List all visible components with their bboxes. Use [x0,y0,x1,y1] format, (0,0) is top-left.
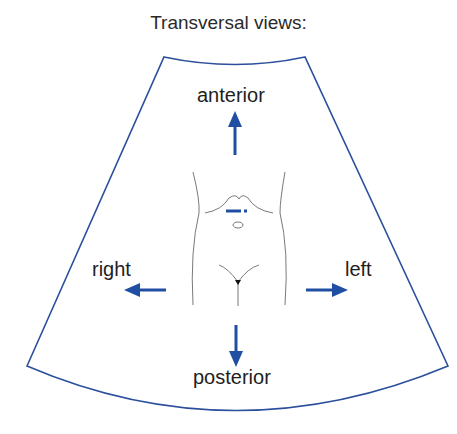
pubic-marker [235,280,241,285]
label-left: left [345,258,372,281]
right-arrow-icon [124,283,166,297]
label-posterior: posterior [193,366,271,389]
anterior-arrow-icon [228,111,242,155]
torso-illustration [192,172,286,306]
label-anterior: anterior [197,84,265,107]
posterior-arrow-icon [229,325,243,367]
label-right: right [92,258,131,281]
transducer-marker-icon [226,210,247,213]
left-arrow-icon [306,283,348,297]
